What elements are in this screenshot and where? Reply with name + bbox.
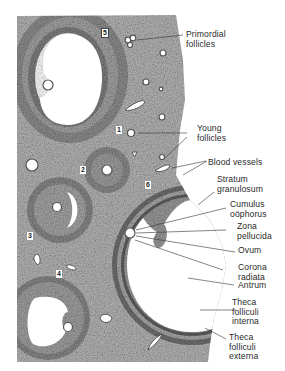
follicle-number-4: 4 (56, 270, 62, 278)
label-zona-pellucida: Zona pellucida (237, 222, 272, 241)
label-theca-folliculi-externa: Theca folliculi externa (229, 333, 258, 362)
follicle-number-1: 1 (116, 126, 122, 134)
label-stratum-granulosum: Stratum granulosum (217, 175, 263, 194)
label-blood-vessels: Blood vessels (208, 158, 262, 168)
antrum-5 (40, 34, 102, 125)
follicle-number-5: 5 (101, 28, 109, 38)
label-cumulus-oophorus: Cumulus oöphorus (230, 200, 267, 219)
label-ovum: Ovum (238, 246, 261, 256)
label-theca-folliculi-interna: Theca folliculi interna (232, 298, 259, 327)
follicle-number-6: 6 (145, 181, 151, 189)
label-primordial-follicles: Primordial follicles (186, 30, 226, 49)
label-antrum: Antrum (238, 281, 266, 291)
follicle-number-2: 2 (80, 166, 86, 174)
label-young-follicles: Young follicles (197, 124, 226, 143)
follicle-number-3: 3 (27, 232, 33, 240)
